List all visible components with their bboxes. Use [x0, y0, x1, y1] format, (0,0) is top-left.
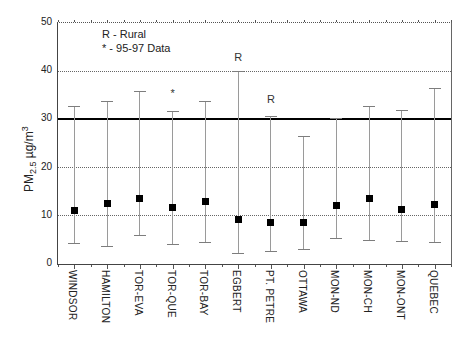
error-cap-top-MON-ND — [330, 118, 342, 119]
x-axis-top-tick — [58, 20, 59, 22]
x-category-label-OTTAWA: OTTAWA — [297, 270, 308, 313]
x-axis-tick-major — [336, 265, 337, 269]
error-cap-bottom-HAMILTON — [101, 246, 113, 247]
x-axis-tick-minor — [418, 265, 419, 267]
legend-entry-rural: R - Rural — [102, 27, 170, 41]
error-cap-bottom-MON-ND — [330, 238, 342, 239]
x-axis-tick-major — [369, 265, 370, 269]
x-category-label-MON-CH: MON-CH — [362, 270, 373, 313]
x-axis-tick-minor — [156, 265, 157, 267]
x-axis-tick-minor — [386, 265, 387, 267]
x-axis-top-tick — [238, 20, 239, 22]
x-axis-top-tick — [173, 20, 174, 22]
mean-marker-WINDSOR — [71, 207, 78, 214]
error-cap-bottom-QUEBEC — [429, 242, 441, 243]
x-category-label-TOR-BAY: TOR-BAY — [198, 270, 209, 316]
error-cap-top-QUEBEC — [429, 88, 441, 89]
error-cap-top-MON-CH — [363, 106, 375, 107]
error-cap-top-MON-ONT — [396, 110, 408, 111]
x-axis-tick-major — [74, 265, 75, 269]
x-category-label-MON-ND: MON-ND — [329, 270, 340, 313]
error-cap-top-PT. PETRE — [265, 116, 277, 117]
gridline-10 — [58, 215, 451, 216]
error-cap-bottom-MON-CH — [363, 240, 375, 241]
mean-marker-PT. PETRE — [267, 219, 274, 226]
x-axis-top-tick — [74, 20, 75, 22]
x-category-label-WINDSOR: WINDSOR — [67, 270, 78, 320]
error-bar-TOR-QUE — [172, 111, 173, 244]
annotation-PT. PETRE: R — [267, 94, 275, 106]
gridline-40 — [58, 71, 451, 72]
error-bar-EGBERT — [238, 71, 239, 253]
x-category-label-TOR-EVA: TOR-EVA — [133, 270, 144, 316]
x-axis-tick-minor — [451, 265, 452, 267]
error-cap-bottom-PT. PETRE — [265, 251, 277, 252]
annotation-EGBERT: R — [234, 51, 242, 63]
error-bar-HAMILTON — [107, 101, 108, 247]
x-axis-top-tick — [156, 20, 157, 22]
error-bar-MON-ONT — [401, 110, 402, 242]
x-axis-tick-minor — [222, 265, 223, 267]
y-tick-label-10: 10 — [22, 209, 52, 220]
x-axis-tick-major — [173, 265, 174, 269]
x-axis-top-tick — [124, 20, 125, 22]
mean-marker-MON-ND — [333, 202, 340, 209]
error-bar-QUEBEC — [434, 89, 435, 243]
error-bar-OTTAWA — [303, 137, 304, 250]
y-tick-label-0: 0 — [22, 257, 52, 268]
x-axis-tick-minor — [91, 265, 92, 267]
y-tick-label-30: 30 — [22, 112, 52, 123]
x-axis-top-tick — [402, 20, 403, 22]
x-category-label-QUEBEC: QUEBEC — [428, 270, 439, 314]
mean-marker-OTTAWA — [300, 219, 307, 226]
x-axis-tick-minor — [124, 265, 125, 267]
mean-marker-MON-ONT — [398, 206, 405, 213]
x-category-label-PT. PETRE: PT. PETRE — [264, 270, 275, 323]
x-axis-tick-major — [435, 265, 436, 269]
error-cap-top-EGBERT — [232, 71, 244, 72]
y-tick-label-40: 40 — [22, 64, 52, 75]
error-cap-top-TOR-EVA — [134, 91, 146, 92]
x-axis-top-tick — [91, 20, 92, 22]
x-axis-tick-major — [304, 265, 305, 269]
plot-area: R - Rural * - 95-97 Data *RR — [57, 22, 452, 265]
mean-marker-MON-CH — [366, 195, 373, 202]
error-cap-bottom-TOR-BAY — [199, 242, 211, 243]
error-cap-bottom-OTTAWA — [298, 249, 310, 250]
x-axis-top-tick — [189, 20, 190, 22]
error-cap-bottom-TOR-EVA — [134, 235, 146, 236]
x-category-label-TOR-QUE: TOR-QUE — [166, 270, 177, 318]
mean-marker-QUEBEC — [431, 201, 438, 208]
error-cap-bottom-EGBERT — [232, 253, 244, 254]
pm25-chart-figure: PM2.5 µg/m3 R - Rural * - 95-97 Data *RR… — [0, 0, 472, 346]
legend-entry-9597-data: * - 95-97 Data — [102, 41, 170, 55]
mean-marker-TOR-EVA — [136, 195, 143, 202]
mean-marker-TOR-QUE — [169, 204, 176, 211]
x-axis-tick-major — [238, 265, 239, 269]
mean-marker-TOR-BAY — [202, 198, 209, 205]
x-axis-top-tick — [435, 20, 436, 22]
x-axis-top-tick — [353, 20, 354, 22]
x-axis-tick-minor — [353, 265, 354, 267]
x-axis-top-tick — [336, 20, 337, 22]
x-axis-top-tick — [386, 20, 387, 22]
y-tick-label-20: 20 — [22, 161, 52, 172]
x-category-label-MON-ONT: MON-ONT — [395, 270, 406, 320]
error-bar-PT. PETRE — [270, 117, 271, 252]
error-cap-top-WINDSOR — [68, 106, 80, 107]
x-axis-tick-major — [271, 265, 272, 269]
y-axis-label-base: PM — [22, 174, 36, 192]
error-cap-bottom-TOR-QUE — [167, 244, 179, 245]
y-axis-label-sup: 3 — [20, 126, 30, 131]
y-tick-label-50: 50 — [22, 16, 52, 27]
error-cap-top-TOR-BAY — [199, 101, 211, 102]
x-axis-top-tick — [255, 20, 256, 22]
error-bar-TOR-BAY — [205, 101, 206, 243]
gridline-20 — [58, 167, 451, 168]
x-axis-top-tick — [271, 20, 272, 22]
x-category-label-HAMILTON: HAMILTON — [100, 270, 111, 323]
error-bar-MON-ND — [336, 118, 337, 239]
x-category-label-EGBERT: EGBERT — [231, 270, 242, 313]
error-bar-TOR-EVA — [139, 91, 140, 235]
x-axis-top-tick — [205, 20, 206, 22]
